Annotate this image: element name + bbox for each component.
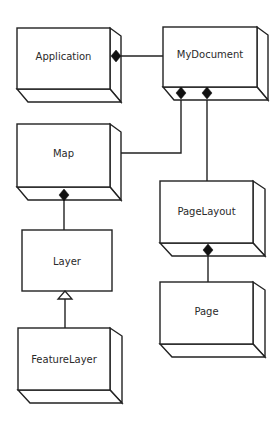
inheritance-triangle-icon [58,291,72,299]
class-label: Map [53,148,74,159]
class-label: MyDocument [177,49,243,60]
class-page[interactable]: Page [160,282,265,357]
class-pagelayout[interactable]: PageLayout [160,181,265,256]
class-label: Application [36,51,92,62]
class-label: PageLayout [177,206,235,217]
class-map[interactable]: Map [17,124,121,200]
class-mydocument[interactable]: MyDocument [163,27,268,100]
class-featurelayer[interactable]: FeatureLayer [18,328,122,403]
class-label: Page [194,306,218,317]
class-label: FeatureLayer [31,354,98,365]
class-diagram: Application MyDocument Map Layer Feature… [0,0,280,422]
class-layer[interactable]: Layer [22,230,112,291]
class-label: Layer [53,256,82,267]
class-application[interactable]: Application [17,28,121,102]
